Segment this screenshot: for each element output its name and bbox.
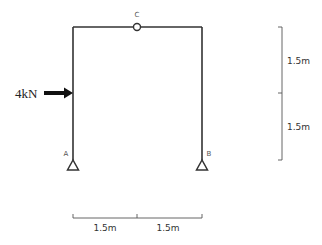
pin-support-a-icon [68,160,79,170]
horizontal-dimension [73,214,202,218]
load-label: 4kN [15,86,38,101]
frame [73,27,202,160]
pin-support-b-icon [197,160,208,170]
frame-diagram: C A B 4kN 1.5m 1.5m 1.5m 1.5m [0,0,322,245]
horizontal-dim-right: 1.5m [156,223,179,233]
hinge-c-label: C [135,11,140,19]
support-a-label: A [64,150,69,158]
support-b-label: B [207,150,212,158]
vertical-dim-upper: 1.5m [287,56,310,66]
vertical-dimension [278,27,282,160]
hinge-c-icon [134,24,141,31]
vertical-dim-lower: 1.5m [287,122,310,132]
horizontal-dim-left: 1.5m [93,223,116,233]
load-arrow-icon [44,88,73,99]
